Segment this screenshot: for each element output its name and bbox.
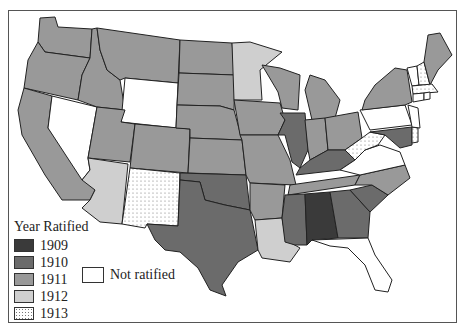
legend-label: 1913 [40,306,68,322]
state-new-mexico [122,168,180,228]
legend-title: Year Ratified [14,219,88,235]
state-maine [424,33,452,85]
legend-swatch-1909 [14,239,34,252]
legend-label: Not ratified [110,267,175,283]
state-north-dakota [179,40,235,75]
legend-item-1912: 1912 [14,288,88,305]
legend-item-1913: 1913 [14,305,88,322]
legend-swatch-1911 [14,273,34,286]
state-delaware [412,127,418,143]
state-mississippi [282,194,307,245]
state-kansas [188,138,246,175]
legend-item-1911: 1911 [14,271,88,288]
legend-label: 1911 [40,272,67,288]
state-south-dakota [177,73,235,110]
legend-swatch-1910 [14,256,34,269]
legend-label: 1912 [40,289,68,305]
state-rhode-island [424,92,430,100]
legend-item-1909: 1909 [14,237,88,254]
legend-swatch-not-ratified [82,267,104,283]
legend-label: 1910 [40,255,68,271]
state-arkansas [250,183,285,220]
state-connecticut [413,93,424,102]
state-iowa [234,100,285,135]
legend-swatch-1912 [14,290,34,303]
state-florida [312,238,392,292]
state-colorado [130,124,190,173]
state-new-york [362,68,412,110]
legend-label: 1909 [40,238,68,254]
legend-item-1910: 1910 [14,254,88,271]
legend-swatch-1913 [14,307,34,320]
state-wyoming [121,78,178,128]
legend: Year Ratified 1909 1910 1911 1912 1913 [14,219,88,322]
legend-item-not-ratified: Not ratified [82,267,175,283]
state-michigan [305,75,340,120]
